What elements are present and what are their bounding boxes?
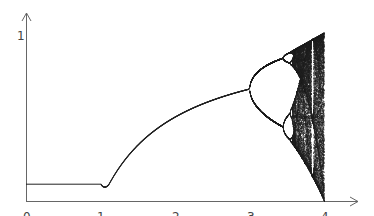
x-tick-label-2: 2 xyxy=(172,211,180,216)
x-tick-label-3: 3 xyxy=(247,211,255,216)
bifurcation-plot xyxy=(0,0,374,216)
x-tick-label-0: 0 xyxy=(23,211,31,216)
x-tick-label-4: 4 xyxy=(321,211,329,216)
x-tick-label-1: 1 xyxy=(97,211,105,216)
y-tick-label-1: 1 xyxy=(17,30,25,42)
bifurcation-curve xyxy=(26,33,325,201)
